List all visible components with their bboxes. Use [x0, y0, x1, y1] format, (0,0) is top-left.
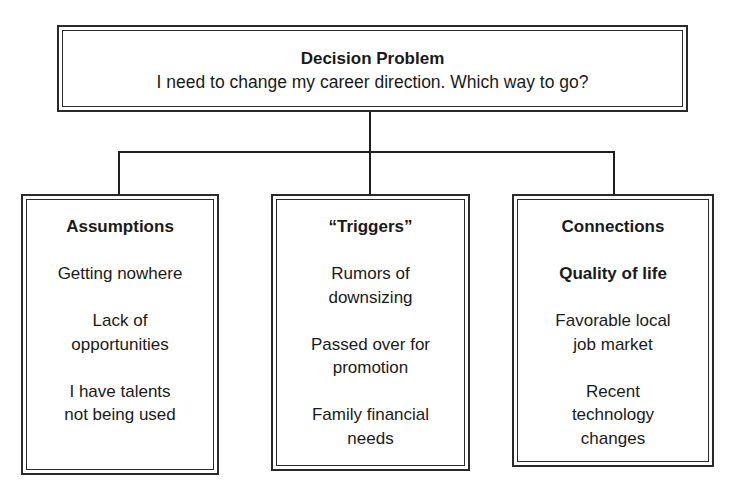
trigger-item: Family financial needs — [273, 403, 468, 450]
trigger-item: Rumors of downsizing — [273, 262, 468, 309]
assumptions-heading: Assumptions — [23, 215, 217, 239]
connector-trunk — [369, 112, 371, 194]
decision-problem-box: Decision Problem I need to change my car… — [57, 25, 688, 112]
connector-horizontal — [118, 151, 614, 153]
connections-heading: Connections — [514, 215, 712, 239]
trigger-item: Passed over for promotion — [273, 333, 468, 380]
connector-right — [613, 151, 615, 194]
decision-problem-title: Decision Problem — [59, 49, 686, 69]
triggers-box: “Triggers” Rumors of downsizing Passed o… — [271, 194, 470, 471]
triggers-heading: “Triggers” — [273, 215, 468, 239]
connection-item: Quality of life — [514, 262, 712, 286]
triggers-content: “Triggers” Rumors of downsizing Passed o… — [273, 215, 468, 474]
connection-item: Favorable local job market — [514, 309, 712, 356]
assumptions-box: Assumptions Getting nowhere Lack of oppo… — [21, 194, 219, 475]
decision-problem-text: I need to change my career direction. Wh… — [59, 71, 686, 93]
connections-content: Connections Quality of life Favorable lo… — [514, 215, 712, 474]
connection-item: Recent technology changes — [514, 380, 712, 451]
connections-box: Connections Quality of life Favorable lo… — [512, 194, 714, 467]
assumption-item: I have talents not being used — [23, 380, 217, 427]
assumption-item: Getting nowhere — [23, 262, 217, 286]
connector-left — [118, 151, 120, 194]
assumptions-content: Assumptions Getting nowhere Lack of oppo… — [23, 215, 217, 450]
assumption-item: Lack of opportunities — [23, 309, 217, 356]
